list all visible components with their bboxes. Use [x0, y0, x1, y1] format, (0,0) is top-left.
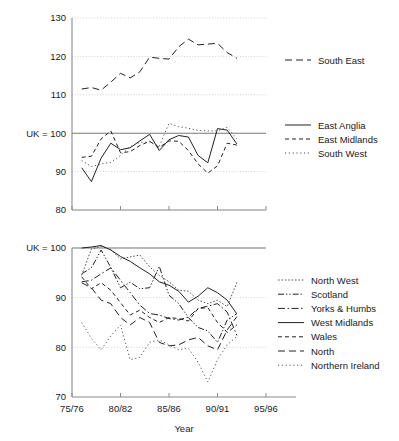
lower-y-tick-label: 70 — [55, 391, 66, 402]
legend-entry-east-anglia[interactable]: East Anglia — [285, 120, 366, 131]
legend-label-scotland: Scotland — [311, 289, 348, 300]
legend-entry-south-east[interactable]: South East — [285, 55, 365, 66]
lower-y-tick-label: 80 — [55, 342, 66, 353]
upper-legend: South EastEast AngliaEast MidlandsSouth … — [285, 55, 378, 159]
series-line-wales — [82, 277, 237, 333]
legend-label-west-midlands: West Midlands — [311, 317, 373, 328]
lower-series-group — [82, 246, 237, 383]
lower-y-tick-label: UK = 100 — [26, 242, 66, 253]
legend-entry-west-midlands[interactable]: West Midlands — [278, 317, 373, 328]
lower-legend: North WestScotlandYorks & HumbsWest Midl… — [278, 275, 380, 371]
lower-x-tick-label: 90/91 — [206, 403, 230, 414]
lower-x-tick-labels: 75/7680/8285/8690/9195/96 — [60, 403, 278, 414]
upper-panel: 8090UK = 100110120130 — [26, 12, 266, 215]
series-line-east-anglia — [82, 129, 237, 182]
legend-entry-east-midlands[interactable]: East Midlands — [285, 134, 378, 145]
series-line-northern-ireland — [82, 323, 237, 383]
legend-label-north-west: North West — [311, 275, 359, 286]
legend-entry-northern-ireland[interactable]: Northern Ireland — [278, 360, 380, 371]
series-line-south-east — [82, 39, 237, 90]
legend-entry-scotland[interactable]: Scotland — [278, 289, 348, 300]
legend-entry-north-west[interactable]: North West — [278, 275, 359, 286]
legend-label-east-midlands: East Midlands — [318, 134, 378, 145]
lower-x-ticks — [72, 393, 266, 397]
lower-y-tick-labels: 708090UK = 100 — [26, 242, 66, 402]
upper-y-tick-label: 110 — [51, 89, 66, 100]
upper-axis-lines — [72, 18, 266, 210]
legend-entry-north[interactable]: North — [278, 346, 334, 357]
upper-x-ticks — [72, 206, 266, 210]
legend-entry-south-west[interactable]: South West — [285, 148, 367, 159]
upper-gridlines — [72, 18, 266, 210]
legend-label-south-east: South East — [318, 55, 365, 66]
upper-y-tick-label: 130 — [50, 12, 66, 23]
series-line-scotland — [82, 250, 237, 342]
lower-gridlines — [72, 298, 266, 348]
lower-y-tick-label: 90 — [55, 292, 66, 303]
lower-x-tick-label: 85/86 — [157, 403, 181, 414]
chart-canvas: 8090UK = 100110120130 South EastEast Ang… — [0, 0, 399, 441]
legend-label-yorks-humbs: Yorks & Humbs — [311, 303, 376, 314]
lower-x-tick-label: 95/96 — [254, 403, 278, 414]
series-line-west-midlands — [82, 246, 237, 315]
upper-y-tick-label: 120 — [50, 51, 66, 62]
legend-label-south-west: South West — [318, 148, 367, 159]
legend-entry-yorks-humbs[interactable]: Yorks & Humbs — [278, 303, 376, 314]
lower-panel: 708090UK = 100 75/7680/8285/8690/9195/96… — [26, 242, 296, 434]
upper-y-tick-label: UK = 100 — [26, 128, 66, 139]
series-line-south-west — [82, 123, 237, 166]
lower-axis-lines — [72, 248, 296, 397]
upper-y-tick-label: 90 — [55, 166, 66, 177]
figure-two-line-charts: 8090UK = 100110120130 South EastEast Ang… — [0, 0, 399, 441]
x-axis-title: Year — [174, 423, 193, 434]
legend-label-northern-ireland: Northern Ireland — [311, 360, 380, 371]
legend-entry-wales[interactable]: Wales — [278, 331, 337, 342]
legend-label-north: North — [311, 346, 334, 357]
lower-x-tick-label: 80/82 — [109, 403, 133, 414]
legend-label-wales: Wales — [311, 331, 337, 342]
legend-label-east-anglia: East Anglia — [318, 120, 366, 131]
lower-x-tick-label: 75/76 — [60, 403, 84, 414]
upper-y-tick-label: 80 — [55, 204, 66, 215]
upper-y-tick-labels: 8090UK = 100110120130 — [26, 12, 66, 215]
upper-series-group — [82, 39, 237, 181]
